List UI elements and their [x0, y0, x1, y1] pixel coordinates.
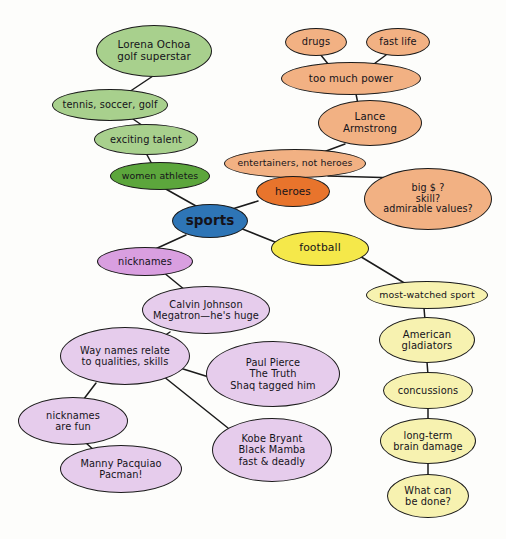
node-label-women: women athletes — [122, 171, 199, 182]
node-label-nicknamesfun: nicknames are fun — [46, 410, 100, 432]
node-gladiators[interactable]: American gladiators — [379, 317, 475, 363]
node-label-manny: Manny Pacquiao Pacman! — [80, 458, 161, 480]
node-label-drugs: drugs — [302, 36, 330, 47]
node-mostwatched[interactable]: most-watched sport — [366, 281, 488, 309]
node-exciting[interactable]: exciting talent — [94, 124, 198, 155]
node-entertainers[interactable]: entertainers, not heroes — [224, 149, 366, 178]
node-label-calvin: Calvin Johnson Megatron—he's huge — [153, 299, 259, 321]
edge-women-to-sports — [164, 188, 196, 206]
node-label-whatcanbedone: What can be done? — [404, 485, 451, 507]
node-waynames[interactable]: Way names relate to qualities, skills — [60, 327, 190, 385]
node-label-sports: sports — [186, 213, 235, 228]
node-braindamage[interactable]: long-term brain damage — [380, 418, 476, 464]
node-football[interactable]: football — [271, 231, 369, 266]
node-sports[interactable]: sports — [172, 204, 248, 238]
node-calvin[interactable]: Calvin Johnson Megatron—he's huge — [142, 286, 270, 334]
node-manny[interactable]: Manny Pacquiao Pacman! — [60, 445, 182, 493]
node-label-tennis: tennis, soccer, golf — [63, 99, 158, 110]
node-label-kobe: Kobe Bryant Black Mamba fast & deadly — [239, 433, 306, 466]
node-label-gladiators: American gladiators — [402, 329, 453, 352]
node-label-waynames: Way names relate to qualities, skills — [80, 345, 170, 367]
node-drugs[interactable]: drugs — [285, 28, 347, 56]
node-nicknames[interactable]: nicknames — [97, 247, 193, 276]
node-heroes[interactable]: heroes — [256, 176, 330, 207]
node-label-nicknames: nicknames — [118, 256, 172, 267]
node-kobe[interactable]: Kobe Bryant Black Mamba fast & deadly — [212, 418, 332, 482]
node-bigmoney[interactable]: big $ ? skill? admirable values? — [364, 168, 492, 230]
node-label-lance: Lance Armstrong — [343, 111, 397, 134]
node-label-toomuchpower: too much power — [309, 73, 393, 85]
node-paulpierce[interactable]: Paul Pierce The Truth Shaq tagged him — [206, 341, 340, 407]
node-label-entertainers: entertainers, not heroes — [238, 158, 353, 169]
node-whatcanbedone[interactable]: What can be done? — [387, 474, 469, 518]
node-label-exciting: exciting talent — [110, 134, 182, 145]
node-toomuchpower[interactable]: too much power — [281, 62, 421, 95]
node-tennis[interactable]: tennis, soccer, golf — [52, 89, 168, 121]
node-label-concussions: concussions — [398, 385, 459, 396]
node-label-mostwatched: most-watched sport — [379, 290, 475, 301]
node-label-lorena: Lorena Ochoa golf superstar — [117, 39, 191, 63]
node-label-paulpierce: Paul Pierce The Truth Shaq tagged him — [230, 357, 315, 390]
node-label-bigmoney: big $ ? skill? admirable values? — [383, 183, 473, 216]
node-lance[interactable]: Lance Armstrong — [318, 100, 422, 146]
node-women[interactable]: women athletes — [110, 162, 210, 190]
edge-football-to-mostwatched — [358, 255, 406, 284]
node-fastlife[interactable]: fast life — [366, 28, 430, 56]
node-lorena[interactable]: Lorena Ochoa golf superstar — [96, 25, 212, 77]
node-label-fastlife: fast life — [379, 36, 416, 47]
node-label-braindamage: long-term brain damage — [393, 430, 463, 452]
node-nicknamesfun[interactable]: nicknames are fun — [18, 397, 128, 445]
mind-map-canvas: sportsLorena Ochoa golf superstartennis,… — [0, 0, 506, 539]
node-concussions[interactable]: concussions — [383, 372, 473, 409]
node-label-football: football — [299, 242, 341, 254]
node-label-heroes: heroes — [275, 186, 311, 198]
